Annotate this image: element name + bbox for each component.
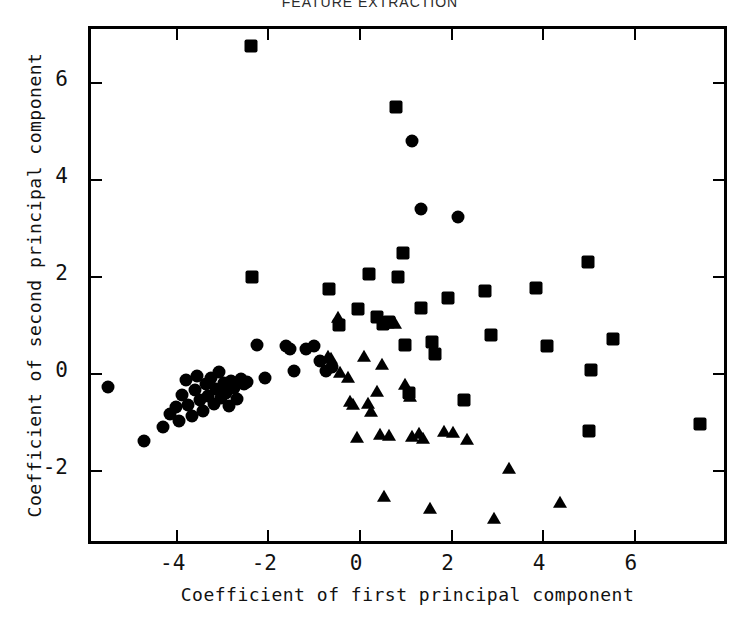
data-point-triangle bbox=[350, 431, 364, 443]
y-tick bbox=[91, 470, 102, 472]
data-point-triangle bbox=[398, 378, 412, 390]
data-point-triangle bbox=[382, 428, 396, 440]
data-point-triangle bbox=[375, 358, 389, 370]
x-tick bbox=[634, 530, 636, 541]
data-point-square bbox=[582, 424, 595, 437]
data-point-square bbox=[541, 340, 554, 353]
data-point-square bbox=[585, 363, 598, 376]
data-point-circle bbox=[101, 380, 114, 393]
data-point-square bbox=[428, 348, 441, 361]
x-tick-top bbox=[359, 29, 361, 40]
data-point-circle bbox=[287, 364, 300, 377]
data-point-circle bbox=[251, 338, 264, 351]
data-point-circle bbox=[173, 414, 186, 427]
y-tick-label: 2 bbox=[55, 261, 68, 285]
x-tick bbox=[267, 530, 269, 541]
x-tick-top bbox=[451, 29, 453, 40]
data-point-square bbox=[458, 393, 471, 406]
data-point-circle bbox=[138, 435, 151, 448]
scatter-plot-figure: FEATURE EXTRACTION -4-20246 -20246 Coeff… bbox=[0, 0, 740, 618]
data-point-circle bbox=[259, 372, 272, 385]
data-point-triangle bbox=[553, 496, 567, 508]
x-axis-label: Coefficient of first principal component bbox=[88, 584, 727, 605]
y-tick-label: 4 bbox=[55, 164, 68, 188]
data-point-square bbox=[484, 328, 497, 341]
data-point-circle bbox=[240, 376, 253, 389]
data-point-square bbox=[244, 40, 257, 53]
data-point-square bbox=[529, 282, 542, 295]
data-point-circle bbox=[415, 202, 428, 215]
data-point-triangle bbox=[377, 489, 391, 501]
x-tick-label: 0 bbox=[350, 551, 363, 575]
data-point-square bbox=[442, 292, 455, 305]
data-point-triangle bbox=[460, 433, 474, 445]
x-tick bbox=[542, 530, 544, 541]
x-tick-top bbox=[542, 29, 544, 40]
data-point-circle bbox=[451, 210, 464, 223]
data-point-triangle bbox=[487, 512, 501, 524]
chart-title: FEATURE EXTRACTION bbox=[0, 0, 740, 10]
x-tick-label: -4 bbox=[160, 551, 185, 575]
data-point-triangle bbox=[416, 432, 430, 444]
data-point-triangle bbox=[502, 462, 516, 474]
data-point-circle bbox=[405, 135, 418, 148]
y-axis-label: Coefficient of second principal componen… bbox=[24, 26, 45, 544]
data-point-triangle bbox=[403, 390, 417, 402]
y-tick bbox=[91, 82, 102, 84]
data-point-circle bbox=[169, 401, 182, 414]
data-point-square bbox=[398, 338, 411, 351]
data-point-triangle bbox=[446, 425, 460, 437]
data-point-triangle bbox=[324, 352, 338, 364]
x-tick bbox=[359, 530, 361, 541]
data-point-triangle bbox=[331, 311, 345, 323]
y-tick-right bbox=[713, 276, 724, 278]
data-point-triangle bbox=[357, 350, 371, 362]
data-point-square bbox=[415, 301, 428, 314]
y-tick-right bbox=[713, 470, 724, 472]
data-point-square bbox=[323, 283, 336, 296]
plot-area bbox=[88, 26, 727, 544]
x-tick-top bbox=[634, 29, 636, 40]
data-point-triangle bbox=[370, 385, 384, 397]
x-tick-top bbox=[267, 29, 269, 40]
y-tick-label: 0 bbox=[55, 358, 68, 382]
x-tick bbox=[176, 530, 178, 541]
data-point-circle bbox=[284, 343, 297, 356]
data-point-square bbox=[351, 302, 364, 315]
data-point-triangle bbox=[388, 317, 402, 329]
x-tick-top bbox=[176, 29, 178, 40]
data-point-triangle bbox=[423, 502, 437, 514]
data-point-square bbox=[390, 101, 403, 114]
data-point-square bbox=[694, 417, 707, 430]
y-tick bbox=[91, 373, 102, 375]
data-point-circle bbox=[230, 392, 243, 405]
data-point-triangle bbox=[341, 371, 355, 383]
data-point-square bbox=[581, 256, 594, 269]
x-tick-label: 6 bbox=[624, 551, 637, 575]
y-tick bbox=[91, 179, 102, 181]
data-point-square bbox=[245, 270, 258, 283]
y-tick-label: 6 bbox=[55, 67, 68, 91]
data-point-circle bbox=[307, 339, 320, 352]
data-point-square bbox=[362, 267, 375, 280]
data-point-circle bbox=[156, 420, 169, 433]
y-tick-right bbox=[713, 373, 724, 375]
data-point-square bbox=[479, 285, 492, 298]
y-tick bbox=[91, 276, 102, 278]
data-point-triangle bbox=[364, 405, 378, 417]
data-point-square bbox=[396, 246, 409, 259]
x-tick-label: -2 bbox=[252, 551, 277, 575]
data-point-square bbox=[607, 332, 620, 345]
x-tick-label: 4 bbox=[533, 551, 546, 575]
data-point-square bbox=[392, 270, 405, 283]
x-tick bbox=[451, 530, 453, 541]
y-tick-right bbox=[713, 179, 724, 181]
x-tick-label: 2 bbox=[441, 551, 454, 575]
data-point-square bbox=[426, 335, 439, 348]
y-tick-right bbox=[713, 82, 724, 84]
data-point-triangle bbox=[346, 397, 360, 409]
y-tick-label: -2 bbox=[43, 455, 68, 479]
